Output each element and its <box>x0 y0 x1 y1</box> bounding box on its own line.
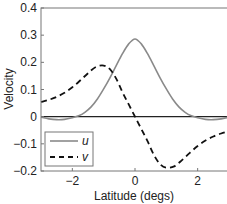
legend: u v <box>45 132 93 166</box>
y-tick-label: 0.3 <box>20 28 37 42</box>
velocity-chart: −0.2−0.100.10.20.30.4 −202 Velocity Lati… <box>0 0 227 204</box>
y-axis-ticks: −0.2−0.100.10.20.30.4 <box>13 1 44 178</box>
x-tick-label: −2 <box>65 174 79 188</box>
y-tick-label: −0.2 <box>13 164 37 178</box>
y-tick-label: 0 <box>30 110 37 124</box>
legend-u-label: u <box>82 134 89 148</box>
y-tick-label: −0.1 <box>13 137 37 151</box>
y-tick-label: 0.4 <box>20 1 37 15</box>
x-axis-label: Latitude (degs) <box>94 189 174 203</box>
legend-v-label: v <box>82 150 89 164</box>
x-tick-label: 2 <box>194 174 201 188</box>
series-u-line <box>41 39 227 120</box>
y-tick-label: 0.2 <box>20 55 37 69</box>
x-tick-label: 0 <box>132 174 139 188</box>
y-tick-label: 0.1 <box>20 83 37 97</box>
y-axis-label: Velocity <box>2 68 16 109</box>
